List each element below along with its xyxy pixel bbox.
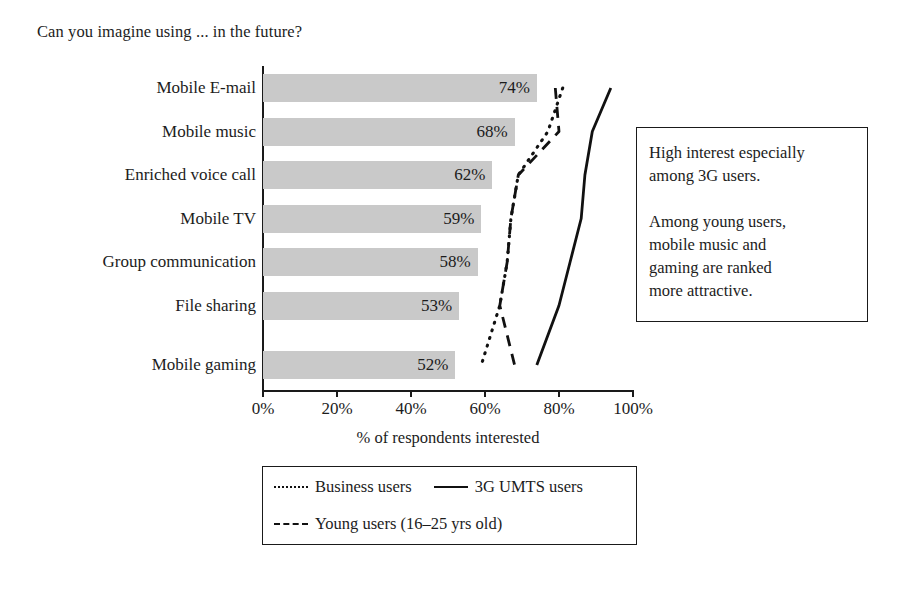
- category-label: Mobile music: [6, 122, 256, 142]
- legend-label-young-users: Young users (16–25 yrs old): [315, 514, 502, 534]
- legend-item-business-users: Business users: [274, 477, 412, 497]
- x-axis-tick-label: 100%: [613, 399, 653, 419]
- x-axis-tick: [484, 390, 486, 397]
- x-axis-title: % of respondents interested: [357, 428, 540, 448]
- category-label-column: Mobile E-mailMobile musicEnriched voice …: [0, 0, 256, 598]
- bar-value-label: 53%: [263, 292, 459, 320]
- bar-value-label: 59%: [263, 205, 481, 233]
- x-axis-tick-label: 40%: [395, 399, 426, 419]
- annotation-line-1: High interest especially: [649, 141, 867, 164]
- annotation-line-6: more attractive.: [649, 279, 867, 302]
- legend-item-young-users: Young users (16–25 yrs old): [274, 514, 502, 534]
- category-label: File sharing: [6, 296, 256, 316]
- legend-label-business-users: Business users: [315, 477, 412, 497]
- x-axis-tick-label: 80%: [543, 399, 574, 419]
- figure-page: Can you imagine using ... in the future?…: [0, 0, 903, 598]
- dotted-line-icon: [274, 481, 308, 493]
- bar-value-label: 74%: [263, 74, 537, 102]
- category-label: Mobile TV: [6, 209, 256, 229]
- category-label: Enriched voice call: [6, 165, 256, 185]
- x-axis-line: [262, 390, 634, 392]
- category-label: Mobile gaming: [6, 355, 256, 375]
- line-series-solid: [537, 88, 611, 365]
- annotation-line-3: Among young users,: [649, 210, 867, 233]
- x-axis-tick: [336, 390, 338, 397]
- category-label: Group communication: [6, 252, 256, 272]
- annotation-box: High interest especially among 3G users.…: [636, 127, 868, 322]
- bar-value-label: 52%: [263, 351, 455, 379]
- annotation-line-2: among 3G users.: [649, 164, 867, 187]
- legend-row-bottom: Young users (16–25 yrs old): [274, 509, 502, 539]
- annotation-line-5: gaming are ranked: [649, 256, 867, 279]
- legend-label-3g-umts-users: 3G UMTS users: [475, 477, 583, 497]
- bar-value-label: 68%: [263, 118, 515, 146]
- bar-value-label: 62%: [263, 161, 492, 189]
- legend-item-3g-umts-users: 3G UMTS users: [434, 477, 583, 497]
- category-label: Mobile E-mail: [6, 78, 256, 98]
- x-axis-tick: [262, 390, 264, 397]
- dashed-line-icon: [274, 518, 308, 530]
- x-axis-tick: [632, 390, 634, 397]
- x-axis-tick-label: 60%: [469, 399, 500, 419]
- annotation-line-4: mobile music and: [649, 233, 867, 256]
- annotation-spacer: [649, 187, 867, 210]
- bar-value-label: 58%: [263, 248, 478, 276]
- solid-line-icon: [434, 481, 468, 493]
- legend-box: Business users 3G UMTS users Young users…: [262, 466, 637, 545]
- x-axis-tick-label: 20%: [321, 399, 352, 419]
- legend-row-top: Business users 3G UMTS users: [274, 472, 583, 502]
- x-axis-tick: [558, 390, 560, 397]
- x-axis-tick: [410, 390, 412, 397]
